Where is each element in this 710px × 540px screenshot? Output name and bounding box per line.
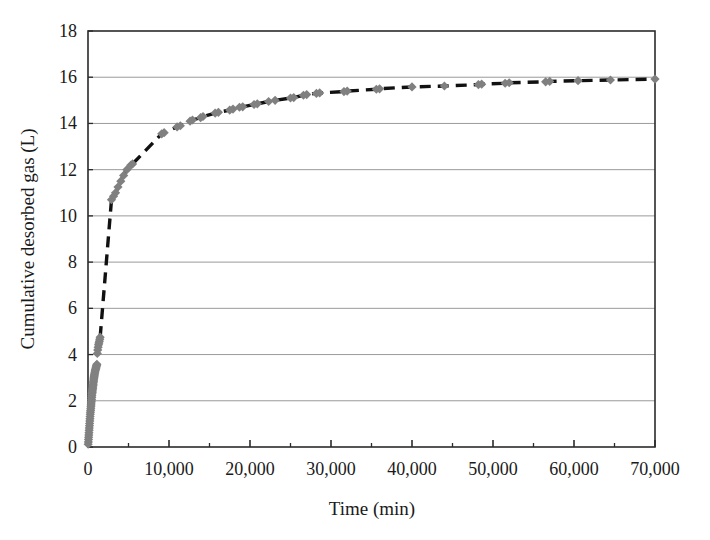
- y-tick-label: 14: [59, 113, 77, 133]
- y-tick-label: 18: [59, 21, 77, 41]
- y-tick-label: 16: [59, 67, 77, 87]
- x-axis-title: Time (min): [329, 498, 415, 520]
- x-tick-label: 60,000: [549, 459, 599, 479]
- y-tick-label: 8: [68, 252, 77, 272]
- x-tick-label: 0: [84, 459, 93, 479]
- chart-figure: 010,00020,00030,00040,00050,00060,00070,…: [0, 0, 710, 540]
- y-tick-label: 4: [68, 345, 77, 365]
- y-tick-label: 6: [68, 298, 77, 318]
- x-tick-label: 50,000: [468, 459, 518, 479]
- y-tick-label: 12: [59, 160, 77, 180]
- x-tick-label: 10,000: [144, 459, 194, 479]
- x-tick-label: 20,000: [225, 459, 275, 479]
- y-tick-label: 10: [59, 206, 77, 226]
- y-axis-title: Cumulative desorbed gas (L): [17, 128, 39, 349]
- x-tick-label: 70,000: [630, 459, 680, 479]
- chart-canvas: 010,00020,00030,00040,00050,00060,00070,…: [0, 0, 710, 540]
- y-tick-label: 2: [68, 391, 77, 411]
- x-tick-label: 40,000: [387, 459, 437, 479]
- x-tick-label: 30,000: [306, 459, 356, 479]
- y-tick-label: 0: [68, 437, 77, 457]
